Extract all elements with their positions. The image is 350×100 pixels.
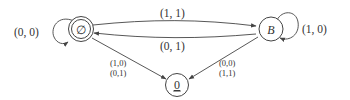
node-empty-set: ∅ — [69, 17, 94, 42]
node-empty-label: ∅ — [76, 23, 86, 37]
node-zero-label: 0 — [174, 78, 180, 92]
edge-label-empty-to-zero-1: (1,0) — [110, 58, 126, 68]
node-B: B — [259, 17, 283, 41]
edge-label-empty-to-zero-2: (0,1) — [110, 68, 126, 78]
edge-label-empty-self: (0, 0) — [14, 26, 39, 39]
edge-label-B-to-zero-2: (1,1) — [219, 68, 235, 78]
edge-B-to-empty — [94, 33, 256, 38]
edge-empty-to-zero — [92, 38, 166, 79]
node-B-label: B — [267, 23, 275, 37]
edge-label-B-to-zero-1: (0,0) — [219, 58, 235, 68]
node-zero: 0 — [166, 74, 189, 97]
edge-label-empty-to-B: (1, 1) — [160, 7, 185, 20]
edge-label-B-self: (1, 0) — [302, 23, 327, 36]
state-diagram: (0, 0) (1, 1) (0, 1) (1, 0) (1,0) (0,1) … — [0, 0, 350, 100]
edge-empty-to-B — [93, 21, 256, 26]
edge-label-B-to-empty: (0, 1) — [160, 40, 185, 53]
